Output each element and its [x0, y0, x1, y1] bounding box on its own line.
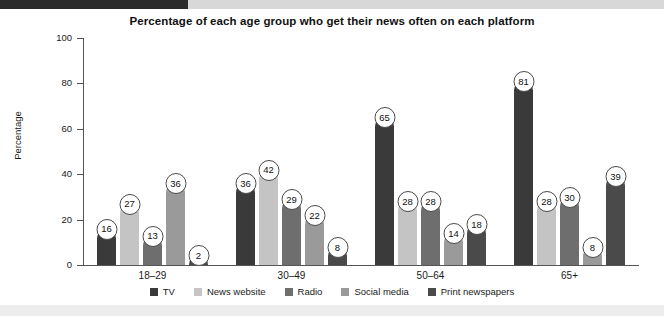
bar-value-label: 36 — [165, 173, 186, 194]
bar-value-label: 30 — [559, 187, 580, 208]
bar-value-label: 39 — [605, 166, 626, 187]
bar: 8 — [328, 247, 347, 265]
scan-artifact-dark-band — [0, 0, 188, 9]
bar: 8 — [583, 247, 602, 265]
bar-value-label: 65 — [374, 107, 395, 128]
chart-title: Percentage of each age group who get the… — [0, 15, 664, 27]
bar-value-label: 18 — [466, 214, 487, 235]
bar-value-label: 8 — [327, 237, 348, 258]
legend-swatch-icon — [150, 288, 158, 296]
bar-value-label: 81 — [513, 71, 534, 92]
bar: 36 — [166, 183, 185, 265]
legend-item-label: News website — [207, 286, 266, 297]
legend-swatch-icon — [341, 288, 349, 296]
bar: 28 — [398, 201, 417, 265]
bar-value-label: 22 — [304, 205, 325, 226]
legend-item-label: Radio — [298, 286, 323, 297]
legend-item-label: Print newspapers — [441, 286, 514, 297]
bar: 36 — [236, 183, 255, 265]
plot-area: 1627133623642292286528281418812830839 — [83, 38, 639, 265]
bar: 28 — [537, 201, 556, 265]
bar-value-label: 42 — [258, 160, 279, 181]
legend-swatch-icon — [285, 288, 293, 296]
bar: 28 — [421, 201, 440, 265]
bar: 42 — [259, 170, 278, 265]
y-axis-label: 80 — [38, 77, 72, 88]
bar: 14 — [444, 233, 463, 265]
legend-swatch-icon — [194, 288, 202, 296]
y-axis-label: 60 — [38, 123, 72, 134]
legend-item[interactable]: TV — [150, 286, 175, 297]
x-axis-group-label: 18–29 — [93, 270, 213, 281]
legend-item[interactable]: Radio — [285, 286, 323, 297]
bar-value-label: 2 — [188, 245, 209, 266]
bar: 18 — [467, 224, 486, 265]
bar-value-label: 28 — [536, 191, 557, 212]
legend-item[interactable]: Social media — [341, 286, 408, 297]
bar: 2 — [189, 255, 208, 265]
x-axis-group-label: 30–49 — [232, 270, 352, 281]
y-axis-title: Percentage — [12, 86, 23, 186]
x-axis-group-label: 65+ — [510, 270, 630, 281]
x-axis-line — [83, 265, 639, 266]
bar: 81 — [514, 81, 533, 265]
y-axis-label: 40 — [38, 168, 72, 179]
scan-artifact-bottom-band — [0, 305, 664, 316]
x-axis-group-label: 50–64 — [371, 270, 491, 281]
scan-artifact-gray-band — [188, 0, 664, 9]
bar-value-label: 8 — [582, 237, 603, 258]
bar: 29 — [282, 199, 301, 265]
bar-value-label: 27 — [119, 194, 140, 215]
bar: 39 — [606, 176, 625, 265]
legend-item[interactable]: Print newspapers — [428, 286, 514, 297]
y-axis-tick — [77, 265, 84, 266]
bar: 27 — [120, 204, 139, 265]
y-axis-label: 20 — [38, 214, 72, 225]
y-axis-label: 100 — [38, 32, 72, 43]
bar: 30 — [560, 197, 579, 265]
legend-item[interactable]: News website — [194, 286, 266, 297]
bar-value-label: 14 — [443, 223, 464, 244]
chart-page: Percentage of each age group who get the… — [0, 0, 664, 316]
bar-value-label: 13 — [142, 226, 163, 247]
bar: 16 — [97, 229, 116, 265]
legend-swatch-icon — [428, 288, 436, 296]
bar-value-label: 36 — [235, 173, 256, 194]
legend-item-label: Social media — [354, 286, 408, 297]
bar-value-label: 29 — [281, 189, 302, 210]
bar: 13 — [143, 236, 162, 266]
y-axis-label: 0 — [38, 259, 72, 270]
bar-value-label: 28 — [420, 191, 441, 212]
bar: 22 — [305, 215, 324, 265]
bar: 65 — [375, 117, 394, 265]
chart-legend: TVNews websiteRadioSocial mediaPrint new… — [0, 286, 664, 297]
bar-value-label: 28 — [397, 191, 418, 212]
bar-value-label: 16 — [96, 219, 117, 240]
legend-item-label: TV — [163, 286, 175, 297]
